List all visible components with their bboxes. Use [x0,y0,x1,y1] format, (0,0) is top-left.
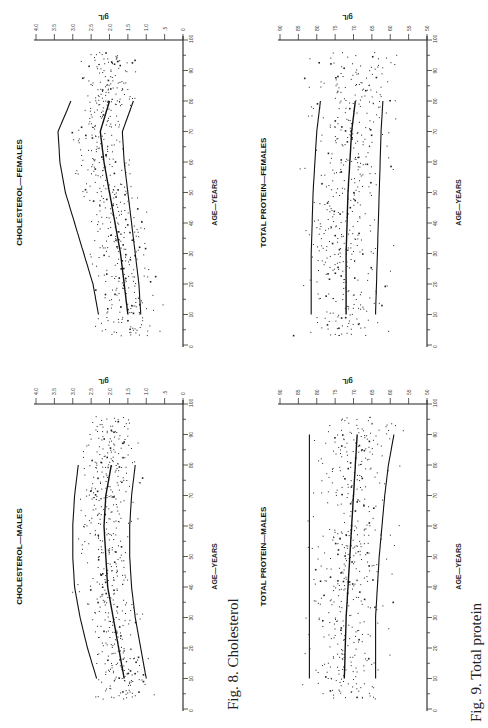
chart-title: CHOLESTEROL—MALES [15,508,24,605]
percentile-curve-median [100,101,128,315]
chart-title: TOTAL PROTEIN—MALES [259,506,268,606]
value-tick-label: 85 [295,25,301,31]
value-tick-label: 0 [180,392,186,395]
chart-svg: 0.51.01.52.02.53.03.54.0g/L0102030405060… [0,0,244,364]
age-tick-label: 30 [188,615,194,621]
value-tick-label: 2.5 [88,388,94,395]
age-tick-label: 70 [432,493,438,499]
value-tick-label: 3.0 [70,388,76,395]
value-tick-label: 80 [314,25,320,31]
percentile-curve-median [344,435,357,679]
age-tick-label: 50 [432,554,438,560]
value-axis-label: g/L [342,13,353,21]
value-tick-label: 1.0 [143,24,149,31]
percentile-curve-upper [58,101,99,315]
value-tick-label: 2.0 [107,388,113,395]
chart-title: TOTAL PROTEIN—FEMALES [259,137,268,247]
value-tick-label: 2.5 [88,24,94,31]
value-tick-label: 70 [351,25,357,31]
age-tick-label: 100 [432,34,438,43]
percentile-curve-upper [311,101,320,315]
percentile-curve-lower [376,101,383,315]
age-tick-label: 20 [188,281,194,287]
value-tick-label: .5 [162,27,168,31]
value-tick-label: 60 [387,25,393,31]
chart-title: CHOLESTEROL—FEMALES [15,139,24,246]
age-tick-label: 90 [432,68,438,74]
age-tick-label: 50 [188,554,194,560]
chart-cholesterol-females: 0.51.01.52.02.53.03.54.0g/L0102030405060… [0,0,244,364]
age-tick-label: 80 [188,462,194,468]
age-tick-label: 90 [188,432,194,438]
value-tick-label: 65 [369,25,375,31]
age-tick-label: 80 [432,98,438,104]
value-tick-label: 2.0 [107,24,113,31]
value-tick-label: 1.5 [125,24,131,31]
age-tick-label: 30 [432,251,438,257]
age-tick-label: 40 [188,584,194,590]
value-tick-label: 85 [295,389,301,395]
age-tick-label: 10 [432,676,438,682]
value-tick-label: 55 [406,25,412,31]
age-tick-label: 70 [432,129,438,135]
value-tick-label: 50 [424,389,430,395]
value-tick-label: 4.0 [33,24,39,31]
value-tick-label: 90 [277,389,283,395]
age-tick-label: 30 [188,251,194,257]
value-tick-label: 3.5 [51,388,57,395]
age-tick-label: 100 [188,34,194,43]
chart-svg: 505560657075808590g/L0102030405060708090… [244,0,488,364]
age-tick-label: 80 [188,98,194,104]
value-axis-label: g/L [98,13,109,21]
figure-caption-total-protein: Fig. 9. Total protein [468,603,485,722]
age-tick-label: 0 [432,709,438,712]
age-tick-label: 10 [432,312,438,318]
value-tick-label: 75 [332,25,338,31]
age-axis-label: AGE—YEARS [211,179,218,226]
value-axis-label: g/L [342,377,353,385]
chart-total-protein-males: 505560657075808590g/L0102030405060708090… [244,364,488,728]
value-tick-label: 65 [369,389,375,395]
chart-total-protein-females: 505560657075808590g/L0102030405060708090… [244,0,488,364]
age-tick-label: 60 [188,159,194,165]
value-tick-label: 60 [387,389,393,395]
age-tick-label: 40 [188,220,194,226]
percentile-curve-lower [376,435,394,679]
age-tick-label: 70 [188,129,194,135]
age-tick-label: 10 [188,312,194,318]
value-tick-label: 55 [406,389,412,395]
age-tick-label: 0 [188,345,194,348]
age-tick-label: 90 [188,68,194,74]
age-tick-label: 20 [432,645,438,651]
age-tick-label: 70 [188,493,194,499]
age-tick-label: 20 [188,645,194,651]
chart-cholesterol-males: 0.51.01.52.02.53.03.54.0g/L0102030405060… [0,364,244,728]
age-tick-label: 60 [432,159,438,165]
age-tick-label: 90 [432,432,438,438]
age-tick-label: 100 [188,398,194,407]
percentile-curve-lower [130,465,147,679]
percentile-curve-upper [73,465,97,679]
age-tick-label: 50 [188,190,194,196]
value-tick-label: 90 [277,25,283,31]
value-tick-label: 75 [332,389,338,395]
value-tick-label: 0 [180,28,186,31]
age-axis-label: AGE—YEARS [211,543,218,590]
value-tick-label: .5 [162,391,168,395]
value-tick-label: 3.0 [70,24,76,31]
figure-caption-cholesterol: Fig. 8. Cholesterol [225,598,242,710]
age-tick-label: 80 [432,462,438,468]
age-tick-label: 0 [432,345,438,348]
age-tick-label: 20 [432,281,438,287]
value-tick-label: 1.5 [125,388,131,395]
age-tick-label: 50 [432,190,438,196]
age-tick-label: 40 [432,220,438,226]
chart-svg: 0.51.01.52.02.53.03.54.0g/L0102030405060… [0,364,244,728]
age-tick-label: 100 [432,398,438,407]
chart-svg: 505560657075808590g/L0102030405060708090… [244,364,488,728]
value-tick-label: 3.5 [51,24,57,31]
age-axis-label: AGE—YEARS [455,179,462,226]
age-axis-label: AGE—YEARS [455,543,462,590]
value-tick-label: 4.0 [33,388,39,395]
age-tick-label: 10 [188,676,194,682]
